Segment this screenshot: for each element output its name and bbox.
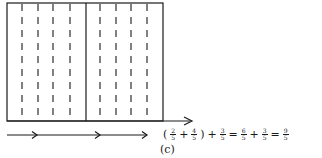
fraction-2-5: 25 — [170, 128, 176, 141]
equation: ( 25 + 45 ) + 35 = 65 + 35 = 95 — [163, 128, 289, 141]
plus-sign: + — [250, 128, 259, 141]
fraction-6-5: 65 — [241, 128, 247, 141]
plus-sign: + — [207, 128, 216, 141]
figure-caption: (c) — [160, 143, 175, 156]
fraction-3-5: 35 — [220, 128, 226, 141]
dashed-tenth-lines — [22, 4, 147, 120]
unit-rectangle — [7, 3, 163, 121]
plus-sign: + — [179, 128, 188, 141]
equals-sign: = — [229, 128, 238, 141]
fraction-3-5-b: 35 — [262, 128, 268, 141]
fraction-9-5: 95 — [283, 128, 289, 141]
fraction-4-5: 45 — [191, 128, 197, 141]
equals-sign: = — [271, 128, 280, 141]
open-paren: ( — [163, 128, 167, 141]
close-paren: ) — [200, 128, 204, 141]
